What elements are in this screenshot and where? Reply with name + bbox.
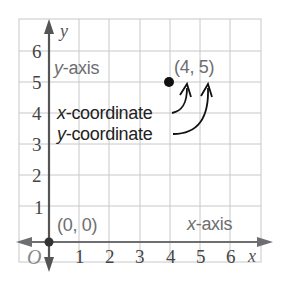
x-coordinate-arrowhead-icon — [180, 84, 191, 97]
y-axis-down-arrow-icon — [44, 257, 54, 272]
x-coordinate-label: x-coordinate — [57, 104, 152, 122]
origin-point — [45, 238, 54, 247]
y-variable-label: y — [60, 22, 68, 40]
y-tick-1: 1 — [34, 198, 44, 217]
y-tick-4: 4 — [32, 104, 42, 123]
y-tick-5: 5 — [32, 73, 42, 92]
coordinate-plane-diagram: 6 5 4 3 2 1 1 2 3 4 5 6 y x O y-axis x-a… — [0, 0, 281, 289]
x-axis-right-arrow-icon — [257, 237, 273, 247]
y-tick-6: 6 — [32, 42, 42, 61]
y-axis-label: y-axis — [54, 59, 99, 77]
point-label: (4, 5) — [174, 58, 214, 76]
point-4-5 — [164, 77, 174, 87]
y-tick-3: 3 — [32, 135, 42, 154]
x-axis-label: x-axis — [187, 215, 232, 233]
x-tick-3: 3 — [135, 247, 145, 266]
origin-point-label: (0, 0) — [57, 216, 97, 234]
y-coordinate-label: y-coordinate — [57, 125, 152, 143]
x-tick-6: 6 — [226, 247, 236, 266]
x-tick-4: 4 — [166, 247, 176, 266]
y-axis — [44, 19, 54, 272]
x-tick-2: 2 — [105, 247, 115, 266]
y-tick-2: 2 — [32, 166, 42, 185]
x-tick-5: 5 — [196, 247, 206, 266]
y-axis-up-arrow-icon — [44, 19, 54, 34]
x-tick-1: 1 — [75, 247, 85, 266]
x-variable-label: x — [248, 247, 256, 265]
annotation-arrows — [172, 84, 212, 134]
x-coordinate-arrow — [172, 88, 187, 113]
origin-label: O — [27, 247, 41, 267]
y-coordinate-arrowhead-icon — [201, 84, 212, 97]
